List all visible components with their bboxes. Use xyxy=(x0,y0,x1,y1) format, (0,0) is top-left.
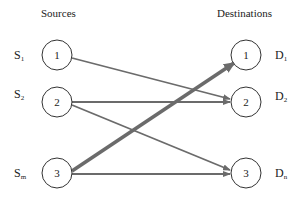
destination-node-1: 1 xyxy=(231,40,261,70)
destination-node-2: 2 xyxy=(231,87,261,117)
source-node-2: 2 xyxy=(42,87,72,117)
source-node-2-number: 2 xyxy=(54,96,60,108)
destination-node-1-number: 1 xyxy=(243,49,249,61)
destination-node-3: 3 xyxy=(231,158,261,188)
source-label-1: S1 xyxy=(14,48,25,63)
edge-s1-d2 xyxy=(72,58,230,99)
source-node-1-number: 1 xyxy=(54,49,60,61)
sources-title: Sources xyxy=(41,7,76,19)
source-label-m: Sm xyxy=(14,166,27,181)
destination-label-2: D2 xyxy=(275,89,288,104)
edges xyxy=(72,58,234,174)
source-node-3-number: 3 xyxy=(54,167,60,179)
destination-node-3-number: 3 xyxy=(243,167,249,179)
destination-label-1: D1 xyxy=(275,48,288,63)
source-node-1: 1 xyxy=(42,40,72,70)
source-label-2: S2 xyxy=(14,87,25,102)
source-node-3: 3 xyxy=(42,158,72,188)
transport-diagram: Sources Destinations 1 2 3 1 2 3 S1 S2 S… xyxy=(0,0,299,198)
edge-s2-d3 xyxy=(72,105,230,170)
destination-node-2-number: 2 xyxy=(243,96,249,108)
destination-label-n: Dn xyxy=(275,166,288,181)
destinations-title: Destinations xyxy=(217,7,272,19)
